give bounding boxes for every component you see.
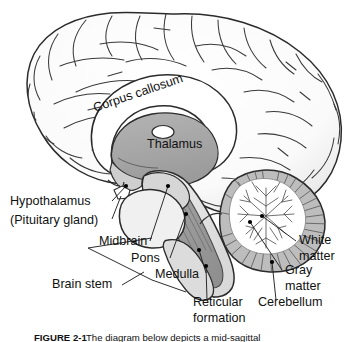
dot-cerebellum: [270, 260, 274, 264]
dot-gray-matter: [248, 220, 252, 224]
dot-midbrain: [166, 184, 170, 188]
label-hypothalamus: Hypothalamus: [10, 194, 91, 208]
label-reticular-formation-line1: Reticular: [193, 295, 243, 309]
label-pituitary-gland: (Pituitary gland): [10, 213, 98, 227]
label-cerebellum: Cerebellum: [258, 295, 322, 309]
label-white-matter-line1: White: [299, 233, 331, 247]
brain-diagram-figure: Corpus callosum Thalamus Hypothalamus (P…: [0, 0, 353, 342]
label-thalamus: Thalamus: [147, 137, 202, 151]
label-white-matter-line2: matter: [299, 249, 335, 263]
figure-caption: FIGURE 2-1 The diagram below depicts a m…: [34, 332, 260, 342]
label-gray-matter-line2: matter: [285, 279, 321, 293]
label-medulla: Medulla: [155, 267, 199, 281]
caption-prefix: FIGURE 2-1: [34, 332, 87, 342]
brain-diagram-svg: Corpus callosum Thalamus Hypothalamus (P…: [0, 0, 353, 342]
dot-white-matter: [260, 214, 264, 218]
label-reticular-formation-line2: formation: [193, 311, 246, 325]
dot-pons: [184, 212, 188, 216]
label-pons: Pons: [131, 251, 160, 265]
dot-hypothalamus: [124, 184, 128, 188]
caption-body: The diagram below depicts a mid-sagittal: [86, 332, 260, 342]
dot-medulla: [197, 248, 201, 252]
label-gray-matter-line1: Gray: [285, 263, 313, 277]
dot-reticular: [204, 264, 208, 268]
label-brain-stem: Brain stem: [52, 277, 112, 291]
label-midbrain: Midbrain: [99, 234, 147, 248]
